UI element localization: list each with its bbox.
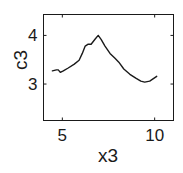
line-chart: 510 34 x3 c3	[0, 0, 183, 173]
y-tick-label: 4	[28, 26, 37, 45]
x-tick-label: 10	[145, 126, 164, 145]
plot-area	[44, 15, 174, 121]
y-tick-label: 3	[28, 75, 37, 94]
y-axis-label: c3	[10, 50, 31, 70]
x-tick-label: 5	[58, 126, 67, 145]
x-axis-label: x3	[98, 145, 118, 166]
